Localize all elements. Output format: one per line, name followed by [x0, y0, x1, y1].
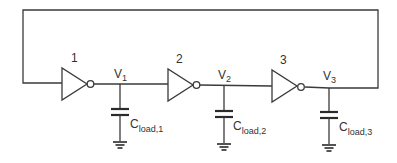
inverter-label: 1 [71, 51, 78, 65]
inverter-label: 2 [176, 52, 183, 66]
inverter-label: 3 [280, 53, 287, 67]
ground-icon [217, 144, 231, 150]
capacitor-label: Cload,3 [339, 120, 372, 137]
wire-inv2-to-inv3 [199, 85, 272, 86]
inverter-triangle-icon [62, 68, 87, 100]
inverter-3: 3 [272, 53, 304, 102]
ground-icon [322, 145, 336, 151]
inverter-triangle-icon [168, 69, 193, 101]
capacitor-label: Cload,2 [233, 119, 266, 136]
node-v2: V2 Cload,2 [215, 68, 266, 150]
inverter-bubble-icon [87, 81, 94, 88]
inverter-triangle-icon [272, 70, 297, 102]
inverter-bubble-icon [298, 84, 305, 91]
node-v3: V3 Cload,3 [320, 69, 372, 151]
capacitor-label: Cload,1 [130, 117, 163, 134]
wire-inv3-out [305, 87, 329, 88]
node-v1: V1 Cload,1 [111, 67, 163, 148]
ring-oscillator-schematic: 1 2 3 V1 Cload,1 V2 [0, 0, 397, 163]
inverter-1: 1 [62, 51, 94, 100]
inverter-bubble-icon [193, 82, 200, 89]
node-label: V2 [218, 68, 231, 84]
ground-icon [113, 142, 127, 148]
node-label: V1 [114, 67, 127, 83]
node-label: V3 [323, 69, 336, 85]
inverter-2: 2 [168, 52, 200, 101]
